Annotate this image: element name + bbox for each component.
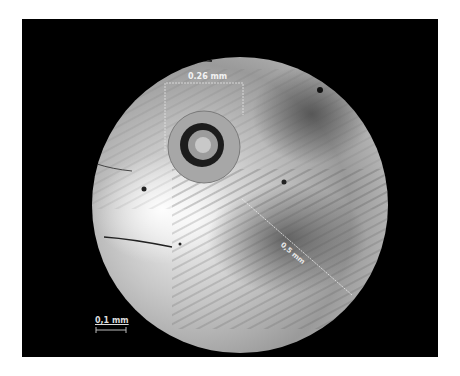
micrograph-frame: 0.26 mm 0,5 mm 0,1 mm xyxy=(22,19,438,357)
micrograph-image xyxy=(22,19,438,357)
core-diameter-label: 0.26 mm xyxy=(188,72,227,81)
scale-bar-label: 0,1 mm xyxy=(95,316,129,325)
